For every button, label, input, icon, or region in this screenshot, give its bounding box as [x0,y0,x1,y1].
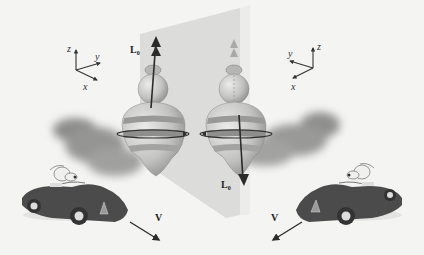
axis-label-y-left: y [94,51,100,62]
velocity-arrow-right [273,222,302,240]
velocity-label-left: V [155,212,163,223]
axis-label-y-right: y [287,48,293,59]
axis-label-x-left: x [82,81,88,92]
mirror-symmetry-diagram: z y x z y x L0 [0,0,424,255]
velocity-arrow-left [130,222,159,240]
angular-momentum-label-left: L0 [130,44,140,56]
velocity-label-right: V [271,212,279,223]
car-right [296,164,402,226]
axis-label-z-left: z [66,43,71,54]
axes-right [290,48,313,78]
axis-label-z-right: z [316,41,321,52]
axis-label-x-right: x [290,81,296,92]
